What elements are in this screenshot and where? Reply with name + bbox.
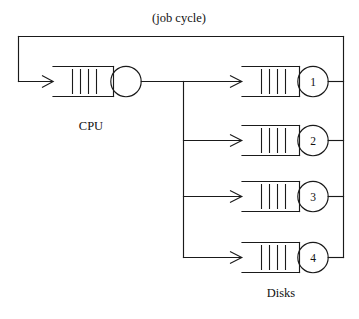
disk-node-3: 3 <box>242 181 344 211</box>
diagram-canvas: (job cycle) <box>0 0 359 319</box>
disk-node-4: 4 <box>242 242 344 272</box>
cpu-server-circle <box>111 66 141 96</box>
branch-to-disk-3 <box>184 191 242 203</box>
diagram-title: (job cycle) <box>152 11 206 25</box>
disk-node-2: 2 <box>242 125 344 155</box>
disk-node-1: 1 <box>242 66 344 96</box>
disk-1-number: 1 <box>310 76 316 88</box>
cpu-queue-slots <box>73 69 97 94</box>
cpu-output-path <box>141 82 183 258</box>
disk-1-queue-slots <box>262 69 286 94</box>
queueing-network-diagram: (job cycle) <box>0 0 359 319</box>
branch-to-disk-4 <box>184 252 242 264</box>
feedback-loop-path <box>19 37 344 88</box>
disk-3-number: 3 <box>310 191 316 203</box>
disk-2-queue-slots <box>262 128 286 153</box>
disk-2-number: 2 <box>310 135 316 147</box>
disk-3-queue-slots <box>262 184 286 209</box>
cpu-node: CPU <box>53 66 141 133</box>
disk-4-number: 4 <box>310 252 316 264</box>
branch-to-disk-1 <box>184 76 242 88</box>
cpu-label: CPU <box>79 119 103 133</box>
disk-4-queue-slots <box>262 245 286 270</box>
branch-to-disk-2 <box>184 135 242 147</box>
disks-group-label: Disks <box>267 286 296 300</box>
